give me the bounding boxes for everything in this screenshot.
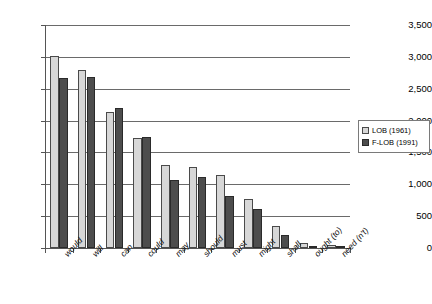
bar-can-flob bbox=[115, 108, 124, 248]
bar-will-flob bbox=[87, 77, 96, 248]
bar-could-flob bbox=[142, 137, 151, 248]
bar-would-flob bbox=[59, 78, 68, 248]
bar-should-lob bbox=[189, 167, 198, 248]
bar-would-lob bbox=[50, 56, 59, 248]
y-axis-tick-label: 2,500 bbox=[394, 84, 432, 93]
x-axis-tick-label: shall bbox=[284, 252, 291, 259]
legend-swatch-icon-flob bbox=[362, 139, 369, 146]
bar-could-lob bbox=[133, 138, 142, 248]
x-axis-tick-label: would bbox=[62, 252, 69, 259]
x-axis-tick-label: might bbox=[256, 252, 263, 259]
x-axis-tick-label: ought (to) bbox=[312, 252, 319, 259]
bar-will-lob bbox=[78, 70, 87, 248]
bar-may-flob bbox=[170, 180, 179, 248]
bar-should-flob bbox=[198, 177, 207, 248]
bar-might-flob bbox=[253, 209, 262, 249]
bar-chart: 05001,0001,5002,0002,5003,0003,500 would… bbox=[0, 0, 432, 304]
x-axis-tick-label: could bbox=[145, 252, 152, 259]
legend-item-flob: F-LOB (1991) bbox=[362, 137, 427, 148]
chart-legend: LOB (1961) F-LOB (1991) bbox=[358, 120, 430, 153]
legend-swatch-icon-lob bbox=[362, 127, 369, 134]
bars-container bbox=[45, 25, 350, 248]
x-axis-line bbox=[45, 248, 351, 249]
x-axis-tick-label: must bbox=[229, 252, 236, 259]
y-axis-tick-label: 3,000 bbox=[394, 52, 432, 61]
bar-can-lob bbox=[106, 112, 115, 248]
x-axis-tick-label: will bbox=[90, 252, 97, 259]
x-axis-tick-label: can bbox=[118, 252, 125, 259]
legend-label-flob: F-LOB (1991) bbox=[372, 139, 418, 147]
x-axis-tick-label: may bbox=[173, 252, 180, 259]
x-axis-tick-label: should bbox=[201, 252, 208, 259]
bar-must-flob bbox=[225, 196, 234, 248]
x-tick-mark bbox=[45, 249, 46, 253]
legend-item-lob: LOB (1961) bbox=[362, 125, 427, 136]
y-axis-tick-label: 0 bbox=[394, 243, 432, 252]
bar-might-lob bbox=[244, 199, 253, 248]
legend-label-lob: LOB (1961) bbox=[372, 127, 411, 135]
bar-may-lob bbox=[161, 165, 170, 248]
y-axis-tick-label: 1,000 bbox=[394, 179, 432, 188]
y-axis-tick-label: 500 bbox=[394, 211, 432, 220]
x-axis-tick-label: need (n't) bbox=[339, 252, 346, 259]
y-axis-tick-label: 3,500 bbox=[394, 20, 432, 29]
